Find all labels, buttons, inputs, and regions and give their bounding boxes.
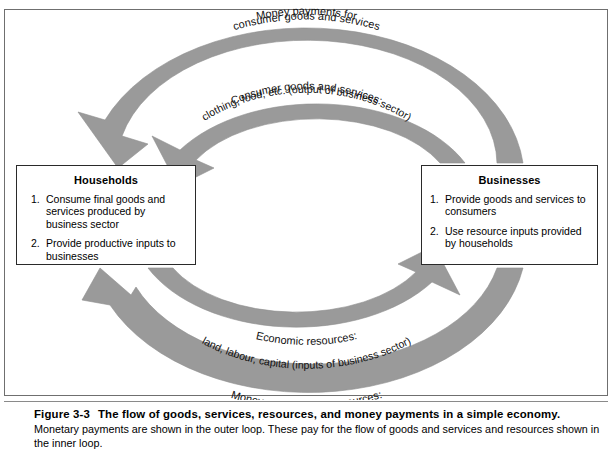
businesses-list-item: 1. Provide goods and services to consume… (430, 193, 591, 218)
figure-title-text: The flow of goods, services, resources, … (98, 408, 560, 420)
flow-label-bottom-inner-line1: Economic resources: (255, 329, 358, 347)
businesses-title: Businesses (422, 174, 597, 186)
households-list-item: 1. Consume final goods and services prod… (31, 193, 189, 230)
list-number: 1. (430, 193, 439, 205)
businesses-list: 1. Provide goods and services to consume… (422, 193, 597, 250)
households-title: Households (17, 174, 195, 186)
list-text: Use resource inputs provided by househol… (445, 225, 582, 249)
list-text: Consume final goods and services produce… (46, 193, 165, 230)
flow-arrow-top-outer (78, 28, 523, 168)
flow-arrow-bottom-outer (82, 268, 523, 392)
figure-description: Monetary payments are shown in the outer… (34, 423, 600, 450)
list-text: Provide productive inputs to businesses (46, 237, 176, 261)
list-number: 1. (31, 193, 40, 205)
figure-title-line: Figure 3-3The flow of goods, services, r… (34, 408, 608, 420)
figure-caption: Figure 3-3The flow of goods, services, r… (4, 401, 608, 450)
figure-page: Money payments for consumer goods and se… (0, 0, 613, 453)
businesses-box: Businesses 1. Provide goods and services… (421, 165, 598, 265)
businesses-list-item: 2. Use resource inputs provided by house… (430, 225, 591, 250)
flow-arrow-top-inner (152, 104, 465, 186)
list-number: 2. (31, 237, 40, 249)
list-text: Provide goods and services to consumers (445, 193, 586, 217)
caption-divider (4, 401, 608, 402)
households-list: 1. Consume final goods and services prod… (17, 193, 195, 262)
figure-number: Figure 3-3 (34, 408, 90, 420)
list-number: 2. (430, 225, 439, 237)
households-box: Households 1. Consume final goods and se… (16, 165, 196, 265)
households-list-item: 2. Provide productive inputs to business… (31, 237, 189, 262)
